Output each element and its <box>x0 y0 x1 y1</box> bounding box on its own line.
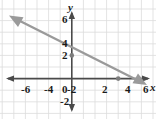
x-tick-label-minus6: -6 <box>21 84 30 95</box>
x-tick-label-minus4: -4 <box>44 84 53 95</box>
y-tick-label-minus2: -2 <box>60 96 69 107</box>
plot-canvas <box>0 0 156 119</box>
grid-lines <box>0 0 156 119</box>
x-tick-label-minus2: -2 <box>67 84 76 95</box>
y-intercept-point <box>70 53 75 58</box>
y-tick-label-2: 2 <box>62 50 68 61</box>
y-tick-label-6: 6 <box>62 14 68 25</box>
coordinate-plane-figure: -6 -4 -2 2 4 6 0 6 4 2 -2 y x <box>0 0 156 119</box>
x-axis-name: x <box>150 82 156 93</box>
plotted-line <box>9 16 147 86</box>
y-axis-name: y <box>68 2 73 13</box>
x-tick-label-6: 6 <box>143 84 149 95</box>
x-tick-label-2: 2 <box>102 84 108 95</box>
y-tick-label-4: 4 <box>62 38 68 49</box>
x-intercept-point <box>116 76 121 81</box>
y-axis <box>69 11 75 112</box>
origin-label: 0 <box>62 84 68 95</box>
x-tick-label-4: 4 <box>125 84 131 95</box>
